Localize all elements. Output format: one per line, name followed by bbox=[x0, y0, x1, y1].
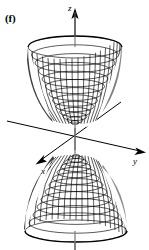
y-axis-arrowhead bbox=[134, 148, 146, 155]
y-axis-label: y bbox=[133, 156, 137, 166]
lower-sheet bbox=[24, 150, 127, 242]
x-axis-label: x bbox=[41, 166, 45, 176]
upper-sheet bbox=[26, 34, 122, 128]
z-axis-label: z bbox=[68, 3, 72, 13]
hyperboloid-surface-plot bbox=[0, 0, 149, 250]
upper-sheet-mask bbox=[28, 36, 122, 128]
figure-container: (f) bbox=[0, 0, 149, 250]
x-axis-arrowhead bbox=[36, 155, 48, 165]
